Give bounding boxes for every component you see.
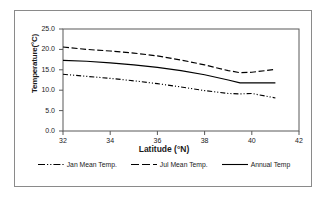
legend-swatch-dashed-icon	[131, 161, 157, 168]
y-tick-label: 10.0	[29, 86, 55, 93]
legend-swatch-dash-dot-dot-icon	[38, 161, 64, 168]
x-axis-title: Latitude (°N)	[15, 144, 313, 154]
y-tick-label: 0.0	[29, 127, 55, 134]
y-axis-ticks	[59, 29, 63, 131]
y-tick-label: 25.0	[29, 25, 55, 32]
x-tick-label: 38	[193, 137, 217, 144]
chart-legend: Jan Mean Temp. Jul Mean Temp. Annual Tem…	[15, 161, 313, 168]
plot-area-border	[63, 29, 299, 131]
y-tick-label: 20.0	[29, 45, 55, 52]
chart-figure: Temperature(°C) Latitude (°N) 25.020.015…	[0, 0, 326, 198]
legend-item-jul: Jul Mean Temp.	[131, 161, 208, 168]
legend-swatch-solid-icon	[222, 161, 248, 168]
legend-label-annual: Annual Temp	[251, 161, 291, 168]
y-tick-label: 15.0	[29, 66, 55, 73]
figure-frame: Temperature(°C) Latitude (°N) 25.020.015…	[14, 10, 312, 187]
legend-item-annual: Annual Temp	[222, 161, 291, 168]
x-tick-label: 42	[287, 137, 311, 144]
legend-item-jan: Jan Mean Temp.	[38, 161, 117, 168]
legend-label-jan: Jan Mean Temp.	[67, 161, 117, 168]
x-tick-label: 36	[145, 137, 169, 144]
y-axis-title: Temperature(°C)	[30, 19, 39, 109]
y-tick-label: 5.0	[29, 107, 55, 114]
x-tick-label: 40	[240, 137, 264, 144]
x-tick-label: 34	[98, 137, 122, 144]
x-axis-ticks	[63, 131, 299, 135]
legend-label-jul: Jul Mean Temp.	[160, 161, 208, 168]
x-tick-label: 32	[51, 137, 75, 144]
